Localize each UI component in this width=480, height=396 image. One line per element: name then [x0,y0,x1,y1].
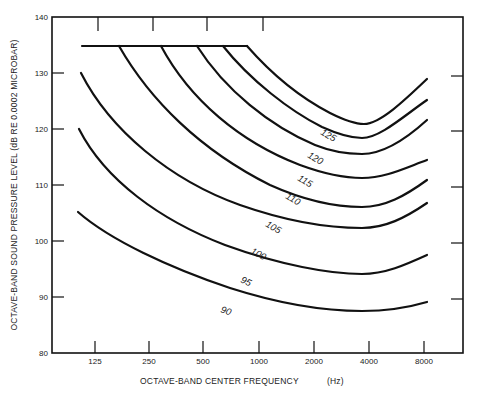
curve-120 [223,46,427,138]
label-105: 105 [264,218,284,236]
x-axis-unit: (Hz) [327,376,344,386]
svg-text:130: 130 [35,69,49,78]
label-120: 120 [306,149,326,167]
svg-text:120: 120 [35,125,49,134]
curve-110 [161,46,427,178]
svg-text:140: 140 [35,13,49,22]
label-95: 95 [239,274,254,289]
curve-105 [119,46,427,207]
svg-text:80: 80 [39,349,48,358]
y-tick-labels: 140 130 120 110 100 90 80 [35,13,49,358]
svg-text:500: 500 [196,357,210,366]
svg-text:100: 100 [35,237,49,246]
svg-text:8000: 8000 [415,357,433,366]
svg-text:2000: 2000 [305,357,323,366]
label-90: 90 [219,304,233,318]
label-125: 125 [319,126,339,144]
svg-text:90: 90 [39,293,48,302]
plot-frame [52,17,463,353]
curve-115 [197,46,427,154]
x-axis-ticks [95,17,424,353]
svg-text:110: 110 [35,181,48,190]
chart: 140 130 120 110 100 90 80 125 250 500 10… [0,0,480,396]
label-100: 100 [249,245,269,262]
label-115: 115 [296,172,315,189]
y-axis-title: OCTAVE-BAND SOUND PRESSURE LEVEL (dB RE … [9,39,19,330]
curve-125 [247,46,427,124]
x-axis-title: OCTAVE-BAND CENTER FREQUENCY [140,376,299,386]
svg-text:1000: 1000 [250,357,268,366]
x-tick-labels: 125 250 500 1000 2000 4000 8000 [88,357,433,366]
noise-criterion-curves [78,46,427,311]
svg-text:125: 125 [88,357,102,366]
svg-text:250: 250 [142,357,156,366]
svg-text:4000: 4000 [360,357,378,366]
label-110: 110 [284,190,303,207]
